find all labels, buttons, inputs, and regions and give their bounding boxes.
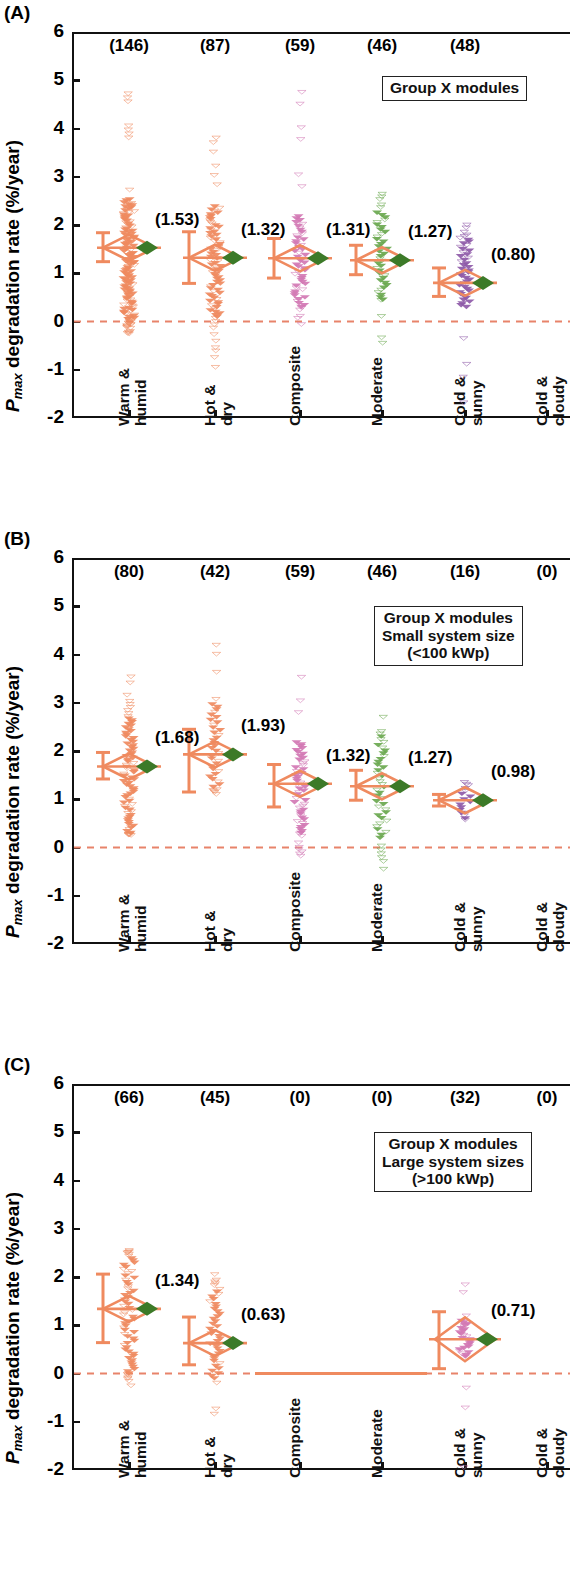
mean-value-label: (0.63) (241, 1305, 285, 1325)
median-marker (476, 1332, 498, 1346)
data-point-marker (211, 1273, 219, 1277)
mean-value-label: (0.71) (491, 1301, 535, 1321)
empty-column-marker (255, 1372, 345, 1375)
data-point-marker (461, 1406, 469, 1410)
data-point-marker (213, 1381, 221, 1385)
data-point-marker (127, 1384, 135, 1388)
data-point-marker (212, 1407, 220, 1411)
data-point-marker (459, 1291, 467, 1295)
empty-column-marker (337, 1372, 427, 1375)
median-marker (136, 1302, 158, 1316)
mean-value-label: (1.34) (155, 1271, 199, 1291)
data-point-marker (129, 1330, 139, 1334)
data-point-marker (461, 1283, 469, 1287)
data-point-marker (460, 1466, 468, 1470)
median-marker (222, 1336, 244, 1350)
data-point-marker (210, 1412, 218, 1416)
data-layer (0, 0, 574, 1583)
data-point-marker (209, 1297, 219, 1301)
figure-root: (A)Pmax degradation rate (%/year)6543210… (0, 0, 574, 1583)
data-point-marker (462, 1386, 470, 1390)
